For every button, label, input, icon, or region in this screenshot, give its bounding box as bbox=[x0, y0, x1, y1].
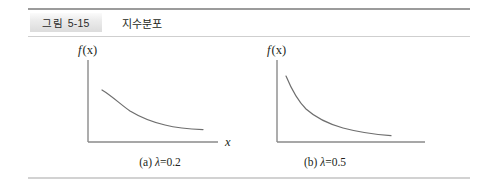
chart-b-y-axis-label: f(x) bbox=[267, 43, 286, 57]
chart-a-curve bbox=[102, 90, 203, 130]
chart-a-caption-index: (a) bbox=[139, 156, 152, 168]
charts-area: f(x) x (a) λ=0.2 f(x) x bbox=[0, 38, 499, 177]
figure-badge-word: 그림 bbox=[42, 15, 62, 30]
figure-badge-number: 5-15 bbox=[68, 17, 90, 29]
figure-title: 지수분포 bbox=[122, 15, 162, 31]
figure-block: 그림 5-15 지수분포 f(x) x (a) λ=0.2 bbox=[0, 0, 499, 191]
figure-top-rule bbox=[28, 8, 470, 10]
chart-b-caption: (b) λ=0.5 bbox=[225, 156, 425, 168]
figure-header-rule bbox=[28, 36, 470, 37]
figure-bottom-rule bbox=[28, 177, 470, 179]
figure-header: 그림 5-15 지수분포 bbox=[28, 13, 470, 34]
chart-panel-b: f(x) x (b) λ=0.5 bbox=[225, 38, 425, 177]
chart-a-y-axis-label: f(x) bbox=[78, 43, 97, 57]
figure-number-badge: 그림 5-15 bbox=[30, 13, 102, 32]
chart-b-caption-index: (b) bbox=[304, 156, 317, 168]
chart-b-curve bbox=[286, 76, 391, 136]
chart-b-caption-value: 0.5 bbox=[332, 156, 346, 168]
chart-a-caption-value: 0.2 bbox=[166, 156, 180, 168]
